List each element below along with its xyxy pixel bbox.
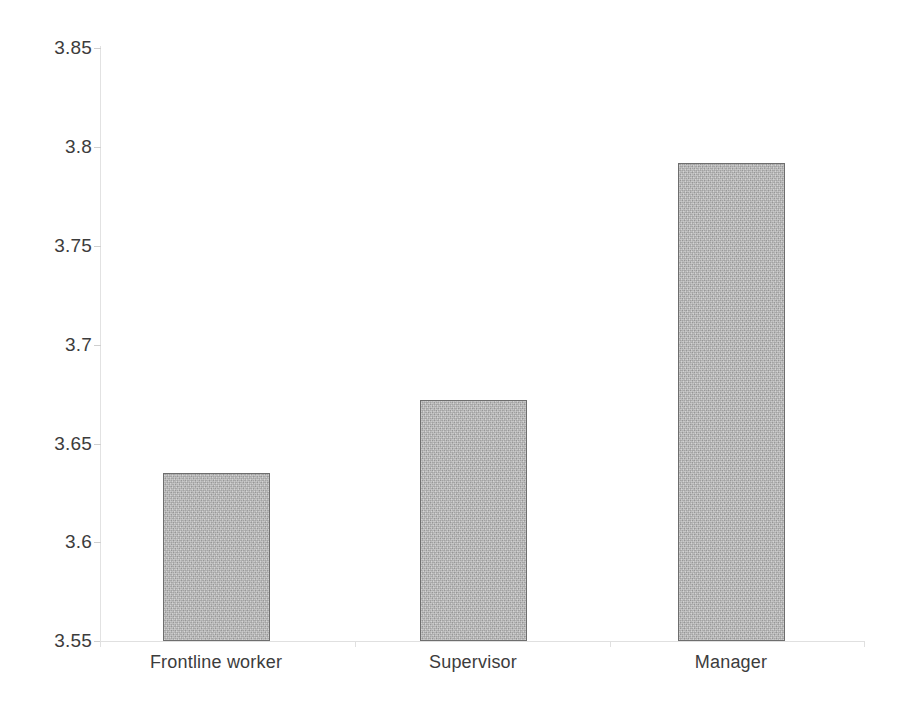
- x-tick-mark-1: [355, 641, 356, 647]
- x-tick-label-frontline-worker: Frontline worker: [150, 652, 282, 673]
- y-tick-label-3-8: 3.8: [65, 136, 92, 158]
- bar-manager: [678, 163, 785, 641]
- bar-chart: 3.55 3.6 3.65 3.7 3.75 3.8 3.85 Frontlin…: [0, 0, 902, 707]
- y-axis-tick-labels: 3.55 3.6 3.65 3.7 3.75 3.8 3.85: [0, 0, 92, 707]
- x-tick-label-supervisor: Supervisor: [429, 652, 517, 673]
- y-tick-label-3-7: 3.7: [65, 334, 92, 356]
- x-tick-label-manager: Manager: [695, 652, 767, 673]
- x-tick-mark-3: [864, 641, 865, 647]
- y-tick-label-3-65: 3.65: [54, 433, 92, 455]
- y-tick-label-3-85: 3.85: [54, 37, 92, 59]
- y-tick-label-3-55: 3.55: [54, 630, 92, 652]
- x-tick-mark-2: [610, 641, 611, 647]
- plot-area: [100, 48, 865, 641]
- bar-frontline-worker: [163, 473, 270, 641]
- y-tick-label-3-6: 3.6: [65, 531, 92, 553]
- y-tick-label-3-75: 3.75: [54, 235, 92, 257]
- x-axis-line: [100, 641, 865, 642]
- bar-supervisor: [420, 400, 527, 641]
- x-tick-mark-0: [100, 641, 101, 647]
